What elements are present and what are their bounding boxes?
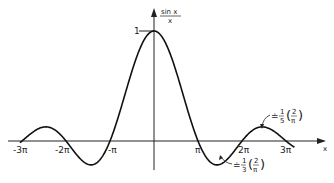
annotation-1: ≐ 1 3 ( 2 π ) bbox=[233, 157, 265, 174]
y-axis-label-numerator: sin x bbox=[161, 8, 177, 16]
y-tick-label-1: 1 bbox=[134, 26, 140, 36]
svg-text:1: 1 bbox=[242, 157, 246, 165]
svg-text:2: 2 bbox=[292, 108, 296, 116]
y-axis-arrow-icon bbox=[151, 8, 157, 17]
annotation-2: ≐ 1 5 ( 2 π ) bbox=[271, 108, 303, 125]
x-tick-label-negpi: -π bbox=[108, 145, 117, 155]
svg-text:2: 2 bbox=[254, 157, 258, 165]
svg-text:≐: ≐ bbox=[271, 111, 279, 121]
y-axis-label-denominator: x bbox=[168, 17, 172, 25]
svg-text:3: 3 bbox=[242, 166, 246, 174]
x-tick-label-neg2pi: -2π bbox=[55, 145, 70, 155]
svg-text:π: π bbox=[253, 166, 258, 174]
svg-text:≐: ≐ bbox=[233, 160, 241, 170]
svg-text:): ) bbox=[260, 157, 265, 172]
svg-text:1: 1 bbox=[280, 108, 284, 116]
x-axis-arrow-icon bbox=[317, 138, 326, 144]
x-axis-label: x bbox=[323, 145, 327, 153]
svg-text:): ) bbox=[298, 108, 303, 123]
x-tick-label-2pi: 2π bbox=[238, 145, 250, 155]
sinc-chart: 1 sin x x x -3π -2π -π π 2π 3π ≐ 1 3 ( 2… bbox=[0, 0, 334, 183]
x-tick-label-3pi: 3π bbox=[280, 145, 292, 155]
x-tick-label-neg3pi: -3π bbox=[13, 145, 28, 155]
svg-text:π: π bbox=[291, 117, 296, 125]
svg-text:5: 5 bbox=[280, 117, 284, 125]
